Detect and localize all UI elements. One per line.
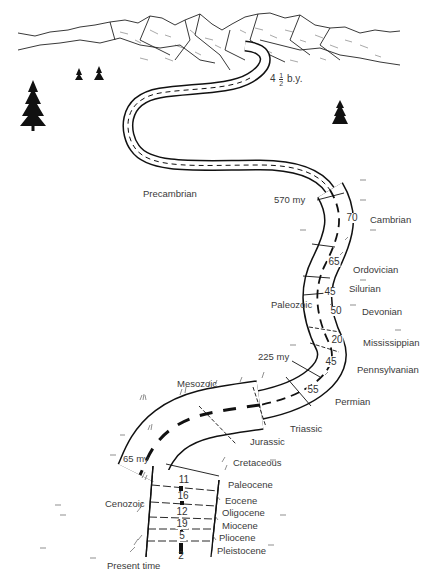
epoch-pliocene: Pliocene (219, 533, 255, 543)
epoch-eocene: Eocene (225, 496, 257, 506)
era-paleozoic: Paleozoic (271, 300, 312, 310)
period-mississippian: Mississippian (363, 338, 420, 348)
duration-cambrian: 70 (345, 213, 358, 223)
pine-tree-small (75, 66, 348, 124)
duration-pleistocene: 2 (177, 551, 185, 561)
mountain-range (18, 13, 400, 70)
epoch-pleistocene: Pleistocene (217, 546, 266, 556)
epoch-oligocene: Oligocene (222, 508, 265, 518)
road-precambrian (128, 46, 330, 190)
present-time-label: Present time (107, 561, 160, 571)
duration-silurian: 45 (323, 287, 336, 297)
duration-devonian: 50 (329, 306, 342, 316)
epoch-paleocene: Paleocene (228, 480, 273, 490)
era-cenozoic: Cenozoic (105, 499, 145, 509)
period-ordovician: Ordovician (353, 265, 398, 275)
fraction-denominator: 2 (279, 80, 283, 87)
marker-570-my: 570 my (274, 195, 305, 205)
start-label-unit: b.y. (287, 73, 302, 84)
duration-eocene: 16 (176, 491, 189, 501)
start-label: 4 1 2 b.y. (270, 72, 302, 87)
epoch-miocene: Miocene (222, 521, 258, 531)
duration-paleocene: 11 (178, 475, 190, 485)
start-label-fraction: 1 2 (279, 72, 283, 87)
era-mesozoic: Mesozoic (177, 379, 217, 389)
period-pennsylvanian: Pennsylvanian (357, 365, 419, 375)
period-permian: Permian (335, 397, 370, 407)
pine-tree-large (20, 80, 46, 131)
period-devonian: Devonian (362, 307, 402, 317)
era-precambrian: Precambrian (143, 189, 197, 199)
duration-miocene: 19 (175, 519, 188, 529)
duration-mississippian: 20 (330, 335, 343, 345)
period-jurassic: Jurassic (250, 437, 285, 447)
duration-oligocene: 12 (175, 507, 188, 517)
duration-permian: 55 (306, 385, 319, 395)
period-cretaceous: Cretaceous (233, 458, 282, 468)
marker-225-my: 225 my (258, 352, 289, 362)
period-triassic: Triassic (290, 424, 322, 434)
start-label-whole: 4 (270, 73, 276, 84)
period-silurian: Silurian (349, 284, 381, 294)
marker-65-my: 65 my (123, 454, 149, 464)
duration-ordovician: 65 (327, 257, 340, 267)
fraction-numerator: 1 (279, 72, 283, 80)
period-cambrian: Cambrian (370, 215, 411, 225)
duration-pennsylvanian: 45 (324, 357, 337, 367)
duration-pliocene: 5 (178, 531, 186, 541)
